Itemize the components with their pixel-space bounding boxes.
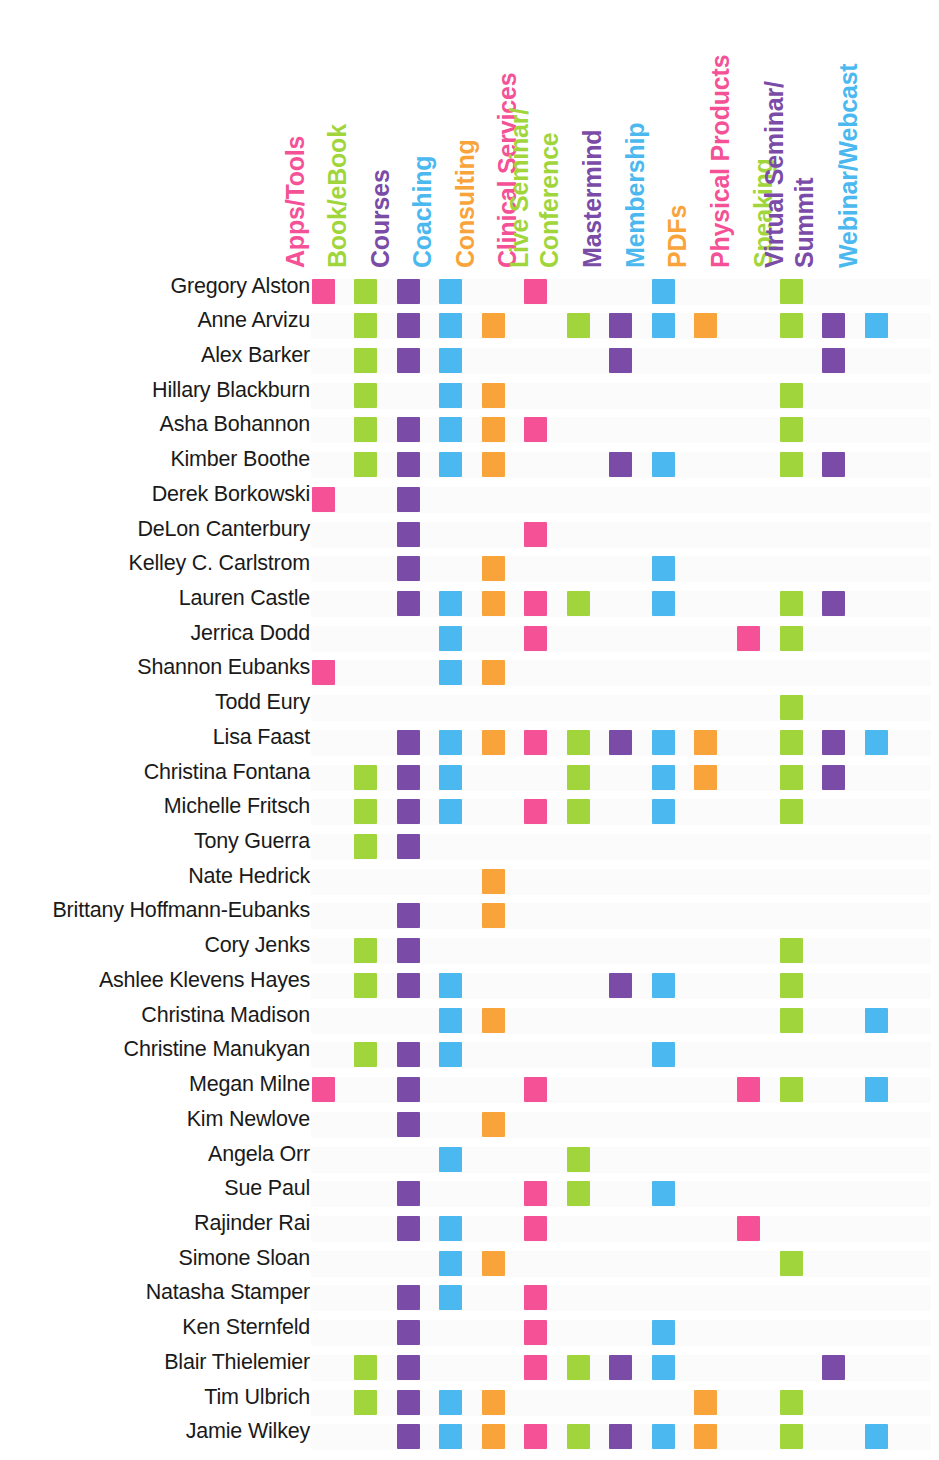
- matrix-cell: [312, 660, 335, 685]
- matrix-cell: [397, 799, 420, 824]
- column-header-line: Physical Products: [707, 55, 734, 268]
- matrix-cell: [482, 313, 505, 338]
- row-background-stripe: [311, 383, 931, 409]
- matrix-cell: [780, 452, 803, 477]
- column-header-line: Book/eBook: [324, 124, 351, 268]
- matrix-cell: [439, 765, 462, 790]
- matrix-cell: [354, 938, 377, 963]
- column-header-line: Live Seminar/: [504, 108, 534, 268]
- column-header-band: Apps/ToolsBook/eBookCoursesCoachingConsu…: [0, 0, 939, 276]
- matrix-cell: [652, 1042, 675, 1067]
- matrix-cell: [822, 591, 845, 616]
- row-background-stripe: [311, 695, 931, 721]
- matrix-cell: [524, 591, 547, 616]
- matrix-cell: [780, 383, 803, 408]
- matrix-cell: [652, 799, 675, 824]
- matrix-cell: [567, 1147, 590, 1172]
- matrix-cell: [567, 799, 590, 824]
- matrix-cell: [652, 591, 675, 616]
- matrix-cell: [524, 522, 547, 547]
- matrix-cell: [524, 1424, 547, 1449]
- matrix-cell: [780, 626, 803, 651]
- matrix-cell: [354, 452, 377, 477]
- matrix-cell: [354, 417, 377, 442]
- matrix-cell: [524, 1285, 547, 1310]
- matrix-cell: [609, 348, 632, 373]
- matrix-cell: [397, 973, 420, 998]
- matrix-cell: [439, 348, 462, 373]
- matrix-cell: [397, 834, 420, 859]
- column-header-line: Apps/Tools: [282, 136, 309, 268]
- matrix-cell: [822, 348, 845, 373]
- matrix-cell: [652, 730, 675, 755]
- matrix-cell: [652, 313, 675, 338]
- matrix-cell: [524, 730, 547, 755]
- matrix-cell: [737, 626, 760, 651]
- matrix-cell: [609, 730, 632, 755]
- matrix-cell: [397, 765, 420, 790]
- matrix-cell: [397, 417, 420, 442]
- matrix-cell: [439, 730, 462, 755]
- row-background-stripe: [311, 1008, 931, 1034]
- matrix-cell: [780, 799, 803, 824]
- row-background-stripe: [311, 1147, 931, 1173]
- column-header-line: Conference: [534, 108, 564, 268]
- matrix-cell: [482, 903, 505, 928]
- matrix-cell: [439, 1285, 462, 1310]
- matrix-cell: [780, 1008, 803, 1033]
- matrix-cell: [524, 417, 547, 442]
- matrix-cell: [865, 1077, 888, 1102]
- matrix-cell: [652, 1424, 675, 1449]
- matrix-cell: [652, 973, 675, 998]
- matrix-cell: [567, 591, 590, 616]
- column-header-line: Webinar/Webcast: [835, 64, 862, 268]
- matrix-cell: [354, 1355, 377, 1380]
- matrix-cell: [609, 973, 632, 998]
- matrix-cell: [397, 313, 420, 338]
- matrix-cell: [780, 1390, 803, 1415]
- column-header-physical-products: Physical Products: [707, 55, 734, 268]
- matrix-cell: [482, 869, 505, 894]
- matrix-cell: [397, 452, 420, 477]
- matrix-cell: [482, 556, 505, 581]
- matrix-cell: [694, 730, 717, 755]
- matrix-cell: [439, 452, 462, 477]
- matrix-cell: [609, 1355, 632, 1380]
- matrix-cell: [524, 1077, 547, 1102]
- matrix-cell: [694, 1390, 717, 1415]
- matrix-cell: [780, 1251, 803, 1276]
- matrix-cell: [354, 383, 377, 408]
- matrix-cell: [567, 730, 590, 755]
- matrix-cell: [865, 313, 888, 338]
- matrix-cell: [439, 591, 462, 616]
- matrix-cell: [439, 1147, 462, 1172]
- matrix-cell: [524, 1355, 547, 1380]
- matrix-cell: [482, 1390, 505, 1415]
- column-header-line: Summit: [789, 81, 819, 268]
- matrix-cell: [482, 660, 505, 685]
- matrix-cell: [397, 556, 420, 581]
- row-background-stripe: [311, 626, 931, 652]
- column-header-pdfs: PDFs: [664, 205, 691, 268]
- matrix-cell: [397, 1390, 420, 1415]
- matrix-cell: [524, 1320, 547, 1345]
- matrix-cell: [737, 1077, 760, 1102]
- matrix-cell: [780, 279, 803, 304]
- column-header-line: Virtual Seminar/: [759, 81, 789, 268]
- matrix-cell: [354, 973, 377, 998]
- matrix-cell: [865, 1008, 888, 1033]
- matrix-cell: [397, 938, 420, 963]
- matrix-cell: [439, 383, 462, 408]
- matrix-cell: [652, 556, 675, 581]
- matrix-cell: [397, 730, 420, 755]
- matrix-cell: [439, 279, 462, 304]
- matrix-cell: [865, 730, 888, 755]
- matrix-cell: [524, 279, 547, 304]
- matrix-cell: [780, 695, 803, 720]
- matrix-cell: [694, 1424, 717, 1449]
- matrix-cell: [609, 313, 632, 338]
- matrix-cell: [482, 591, 505, 616]
- matrix-cell: [652, 279, 675, 304]
- matrix-cell: [822, 1355, 845, 1380]
- matrix-cell: [354, 765, 377, 790]
